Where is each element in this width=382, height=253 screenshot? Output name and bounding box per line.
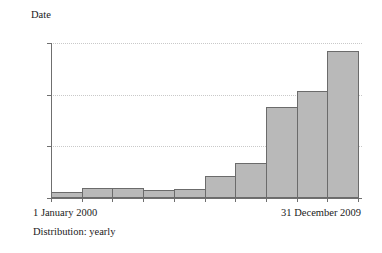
bar xyxy=(143,190,175,198)
x-axis-start-label: 1 January 2000 xyxy=(33,207,97,219)
x-axis xyxy=(51,198,362,199)
x-axis-tick xyxy=(327,198,328,202)
bar xyxy=(235,163,267,198)
bar-series xyxy=(51,43,358,198)
x-axis-tick xyxy=(235,198,236,202)
y-axis-tick xyxy=(47,43,52,44)
bar xyxy=(112,188,144,198)
bar xyxy=(205,176,237,198)
x-axis-tick xyxy=(51,198,52,202)
x-axis-tick xyxy=(82,198,83,202)
plot-area xyxy=(51,43,362,198)
y-axis-tick xyxy=(47,95,52,96)
bar xyxy=(297,91,329,198)
bar xyxy=(327,51,359,198)
chart-title: Date xyxy=(31,9,51,21)
bar xyxy=(82,188,114,198)
bar xyxy=(266,107,298,198)
bar xyxy=(174,189,206,198)
y-axis xyxy=(51,43,52,198)
x-axis-tick xyxy=(174,198,175,202)
distribution-note: Distribution: yearly xyxy=(33,226,116,238)
x-axis-tick xyxy=(143,198,144,202)
x-axis-tick xyxy=(205,198,206,202)
x-axis-tick xyxy=(358,198,359,202)
x-axis-end-label: 31 December 2009 xyxy=(281,207,361,219)
x-axis-tick xyxy=(266,198,267,202)
x-axis-tick xyxy=(297,198,298,202)
y-axis-tick xyxy=(47,146,52,147)
bar-chart: Date 010 00020 00030 000 1 January 2000 … xyxy=(0,0,382,253)
x-axis-tick xyxy=(112,198,113,202)
